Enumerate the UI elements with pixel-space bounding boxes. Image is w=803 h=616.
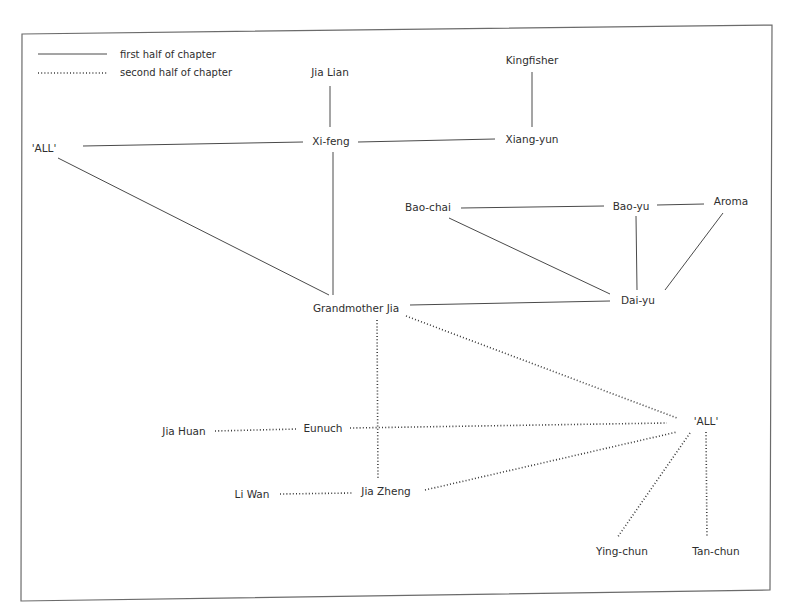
- character-network-diagram: first half of chapter second half of cha…: [0, 0, 803, 616]
- node-ying-chun: Ying-chun: [595, 545, 648, 557]
- node-eunuch: Eunuch: [303, 422, 342, 434]
- node-bao-chai: Bao-chai: [405, 201, 451, 213]
- edge-all-bottom-ying-chun: [617, 433, 690, 538]
- node-xiang-yun: Xiang-yun: [506, 133, 559, 145]
- edge-aroma-dai-yu: [665, 213, 723, 290]
- edge-xi-feng-xiang-yun: [358, 139, 495, 142]
- node-aroma: Aroma: [714, 195, 748, 207]
- node-xi-feng: Xi-feng: [312, 135, 349, 147]
- legend-solid-label: first half of chapter: [120, 49, 217, 60]
- edge-all-top-xi-feng: [83, 142, 303, 146]
- edge-bao-yu-aroma: [657, 204, 704, 205]
- edge-grandmother-jia-all-bottom: [406, 316, 677, 418]
- node-all-top: 'ALL': [32, 142, 57, 154]
- edge-bao-chai-bao-yu: [461, 206, 604, 208]
- edge-grandmother-jia-jia-zheng: [377, 320, 378, 480]
- edge-all-bottom-tan-chun: [706, 432, 707, 537]
- node-kingfisher: Kingfisher: [506, 54, 559, 66]
- node-labels: Jia Lian Kingfisher 'ALL' Xi-feng Xiang-…: [32, 54, 749, 557]
- edges-first-half: [58, 72, 723, 305]
- node-jia-huan: Jia Huan: [161, 425, 205, 437]
- edge-li-wan-jia-zheng: [280, 493, 352, 494]
- edge-grandmother-jia-dai-yu: [410, 301, 610, 305]
- node-jia-lian: Jia Lian: [310, 66, 349, 78]
- node-grandmother-jia: Grandmother Jia: [313, 302, 399, 314]
- node-dai-yu: Dai-yu: [621, 294, 655, 306]
- node-all-bottom: 'ALL': [694, 415, 719, 427]
- legend-dotted-label: second half of chapter: [120, 67, 233, 78]
- edge-all-top-grandmother-jia: [58, 158, 329, 295]
- legend: first half of chapter second half of cha…: [38, 49, 233, 78]
- edge-jia-zheng-all-bottom: [425, 432, 677, 490]
- node-tan-chun: Tan-chun: [691, 545, 739, 557]
- edge-jia-huan-eunuch: [215, 429, 297, 431]
- edge-bao-yu-dai-yu: [636, 216, 637, 290]
- node-jia-zheng: Jia Zheng: [360, 485, 410, 497]
- edge-eunuch-all-bottom: [350, 423, 667, 428]
- node-bao-yu: Bao-yu: [613, 200, 650, 212]
- edges-second-half: [215, 316, 707, 538]
- node-li-wan: Li Wan: [235, 488, 270, 500]
- edge-bao-chai-dai-yu: [449, 218, 610, 294]
